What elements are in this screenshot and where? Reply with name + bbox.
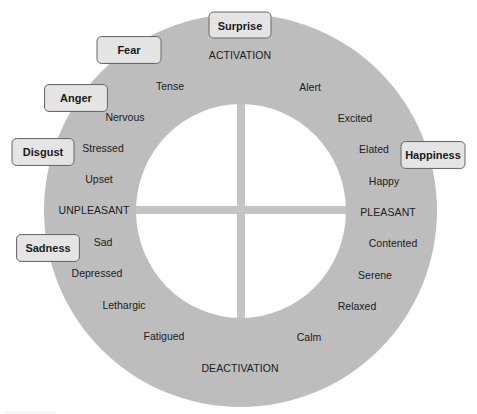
emotion-label-fear: Fear: [117, 44, 140, 56]
axis-label-activation: ACTIVATION: [209, 49, 271, 61]
emotion-box-disgust: Disgust: [12, 138, 75, 166]
affect-word-fatigued: Fatigued: [144, 330, 185, 342]
affect-word-upset: Upset: [85, 173, 112, 185]
affect-word-serene: Serene: [358, 269, 392, 281]
emotion-box-happiness: Happiness: [401, 141, 466, 169]
divider-line: [5, 412, 55, 413]
emotion-box-surprise: Surprise: [209, 12, 272, 39]
emotion-label-surprise: Surprise: [218, 19, 263, 31]
emotion-label-sadness: Sadness: [25, 242, 70, 254]
affect-word-tense: Tense: [156, 80, 184, 92]
horizontal-axis-bar: [136, 206, 346, 214]
affect-word-calm: Calm: [297, 331, 322, 343]
emotion-box-fear: Fear: [97, 36, 162, 64]
axis-label-unpleasant: UNPLEASANT: [58, 204, 129, 216]
axis-label-pleasant: PLEASANT: [360, 206, 416, 218]
affect-word-excited: Excited: [338, 112, 372, 124]
affect-word-relaxed: Relaxed: [338, 300, 377, 312]
emotion-label-disgust: Disgust: [23, 146, 63, 158]
emotion-box-sadness: Sadness: [16, 234, 80, 262]
affect-word-sad: Sad: [94, 236, 113, 248]
affect-word-happy: Happy: [369, 175, 399, 187]
affect-word-nervous: Nervous: [105, 111, 144, 123]
emotion-label-happiness: Happiness: [405, 149, 461, 161]
affect-word-stressed: Stressed: [82, 142, 123, 154]
affect-word-elated: Elated: [359, 143, 389, 155]
emotion-box-anger: Anger: [44, 84, 108, 112]
affect-word-lethargic: Lethargic: [102, 299, 145, 311]
affect-word-contented: Contented: [369, 237, 417, 249]
emotion-label-anger: Anger: [60, 92, 92, 104]
affect-word-depressed: Depressed: [72, 267, 123, 279]
affect-word-alert: Alert: [299, 81, 321, 93]
axis-label-deactivation: DEACTIVATION: [201, 362, 278, 374]
